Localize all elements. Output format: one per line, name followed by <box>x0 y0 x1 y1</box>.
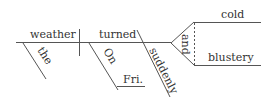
sentence-diagram: weather turned the On Fri. suddenly and … <box>0 0 273 104</box>
complement-2-word: blustery <box>208 51 254 64</box>
subject-word: weather <box>30 28 76 41</box>
preposition-word: On <box>100 46 120 67</box>
preposition-object-word: Fri. <box>123 73 143 86</box>
subject-modifier-word: the <box>34 45 55 67</box>
complement-1-word: cold <box>221 8 244 21</box>
conjunction-word: and <box>179 34 192 55</box>
verb-word: turned <box>99 28 136 41</box>
verb-modifier-word: suddenly <box>146 45 181 96</box>
